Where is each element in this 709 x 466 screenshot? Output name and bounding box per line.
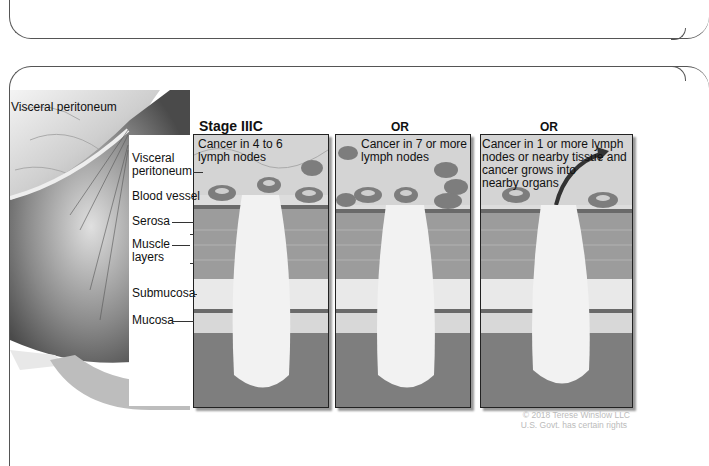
panel-4-to-6-nodes <box>193 134 329 408</box>
tissue-illustration-2 <box>336 135 470 407</box>
visceral-peritoneum-top-label: Visceral peritoneum <box>11 101 117 114</box>
label-submucosa: Submucosa <box>132 287 195 300</box>
leader-line <box>193 172 203 173</box>
leader-line <box>172 222 194 223</box>
muscle-bracket <box>190 234 194 264</box>
leader-line <box>172 321 194 322</box>
label-visceral-peritoneum-line-2: peritoneum <box>132 165 192 178</box>
or-label-2: OR <box>540 121 558 134</box>
panel-3-caption-line-4: nearby organs <box>482 177 559 190</box>
copyright-line-2: U.S. Govt. has certain rights <box>520 420 627 430</box>
leader-line <box>193 294 197 295</box>
label-blood-vessel: Blood vessel <box>132 190 200 203</box>
label-serosa: Serosa <box>132 215 170 228</box>
label-muscle-layers-line-2: layers <box>132 251 164 264</box>
panel-2-caption-line-2: lymph nodes <box>361 151 429 164</box>
panel-1-caption-line-2: lymph nodes <box>198 151 266 164</box>
panel-7-or-more-nodes <box>335 134 471 408</box>
stage-title: Stage IIIC <box>199 120 263 133</box>
tissue-illustration-1 <box>194 135 328 407</box>
label-mucosa: Mucosa <box>132 314 174 327</box>
top-frame <box>9 0 709 39</box>
copyright-line-1: © 2018 Terese Winslow LLC <box>520 410 630 420</box>
or-label-1: OR <box>391 121 409 134</box>
leader-line <box>172 245 190 246</box>
